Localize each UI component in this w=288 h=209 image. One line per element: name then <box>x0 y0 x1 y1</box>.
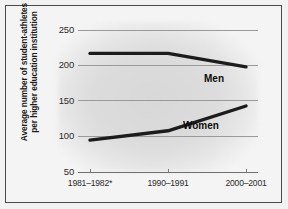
series-line-women <box>90 106 246 140</box>
series-lines <box>0 0 288 209</box>
chart-figure: Average number of student-athletes per h… <box>0 0 288 209</box>
plot-area: Average number of student-athletes per h… <box>0 0 288 209</box>
series-label-women: Women <box>183 120 219 131</box>
series-line-men <box>90 53 246 67</box>
series-label-men: Men <box>204 73 224 84</box>
